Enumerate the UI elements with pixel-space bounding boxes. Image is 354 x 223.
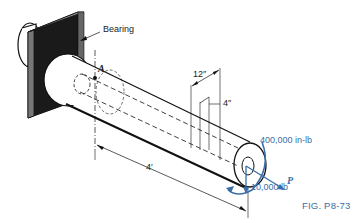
dim-12in-label: 12″ bbox=[193, 70, 206, 79]
shaft bbox=[44, 54, 266, 188]
diagram-drawing bbox=[0, 0, 354, 223]
figure-caption: FIG. P8-73 bbox=[302, 201, 350, 211]
dim-4in-label: 4″ bbox=[223, 99, 231, 108]
dim-4ft-label: 4′ bbox=[146, 163, 153, 172]
moment-label: 400,000 in-lb bbox=[260, 136, 312, 145]
bearing-label: Bearing bbox=[103, 25, 134, 34]
point-a-label: A bbox=[98, 64, 105, 74]
force-down-label: 10,000 lb bbox=[251, 183, 288, 192]
